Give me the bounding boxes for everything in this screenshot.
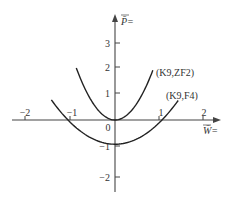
y-axis-label: P̄= — [120, 16, 134, 27]
curve-label-k9-f4: (K9,F4) — [166, 90, 198, 102]
curve-label-k9-zf2: (K9,ZF2) — [156, 67, 194, 79]
chart-canvas: −2 −1 1 2 0 W̄= 3 2 1 −1 −2 P̄= — [0, 0, 231, 200]
chart: −2 −1 1 2 0 W̄= 3 2 1 −1 −2 P̄= — [0, 0, 231, 200]
y-tick-label: 3 — [105, 38, 110, 49]
y-axis-arrow-icon — [112, 14, 118, 22]
x-tick-label: −2 — [20, 107, 31, 118]
x-tick-label: −1 — [67, 107, 78, 118]
x-axis: −2 −1 1 2 0 W̄= — [12, 107, 221, 136]
origin-label: 0 — [106, 122, 111, 133]
y-tick-label: 2 — [105, 62, 110, 73]
x-tick-label: 1 — [159, 107, 164, 118]
y-axis: 3 2 1 −1 −2 P̄= — [99, 14, 134, 192]
y-tick-label: 1 — [105, 88, 110, 99]
x-tick-label: 2 — [202, 107, 207, 118]
x-axis-arrow-icon — [213, 117, 221, 123]
x-axis-label: W̄= — [203, 125, 218, 136]
y-tick-label: −2 — [99, 172, 110, 183]
